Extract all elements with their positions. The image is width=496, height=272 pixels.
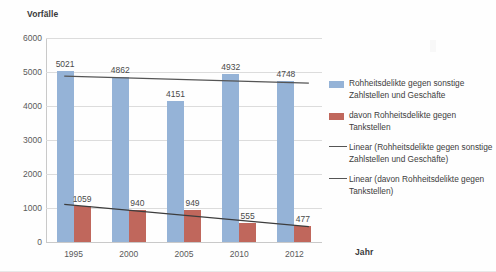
- y-tick-label: 3000: [0, 135, 42, 145]
- gridline: [46, 242, 322, 243]
- x-tick-label: 1995: [64, 249, 83, 259]
- chart-legend: Rohheitsdelikte gegen sonstige Zahlstell…: [329, 78, 493, 206]
- x-tick-label: 2012: [285, 249, 304, 259]
- y-tick-label: 2000: [0, 169, 42, 179]
- y-tick-label: 0: [0, 237, 42, 247]
- legend-label: davon Rohheitsdelikte gegen Tankstellen: [349, 110, 493, 133]
- x-tick-label: 2010: [230, 249, 249, 259]
- y-axis-tick-labels: 6000500040003000200010000: [0, 0, 42, 204]
- legend-swatch-line-icon: [329, 146, 347, 154]
- trendline: [64, 76, 309, 83]
- chart-canvas: Vorfälle Jahr 6000500040003000200010000 …: [0, 0, 496, 272]
- x-axis-title: Jahr: [355, 247, 373, 257]
- legend-swatch-blue-square-icon: [329, 81, 344, 88]
- legend-item[interactable]: Linear (Rohheitsdelikte gegen sonstige Z…: [329, 142, 493, 165]
- y-tick-label: 1000: [0, 203, 42, 213]
- legend-label: Rohheitsdelikte gegen sonstige Zahlstell…: [349, 78, 493, 101]
- y-tick-label: 6000: [0, 33, 42, 43]
- trendline: [64, 204, 309, 226]
- legend-label: Linear (Rohheitsdelikte gegen sonstige Z…: [349, 142, 493, 165]
- scan-artifact: [430, 40, 436, 52]
- x-tick-label: 2000: [119, 249, 138, 259]
- x-tick-label: 2005: [175, 249, 194, 259]
- legend-swatch-red-square-icon: [329, 113, 344, 120]
- legend-label: Linear (davon Rohheitsdelikte gegen Tank…: [349, 174, 493, 197]
- y-tick-label: 4000: [0, 101, 42, 111]
- trendlines-layer: [46, 38, 322, 242]
- legend-item[interactable]: davon Rohheitsdelikte gegen Tankstellen: [329, 110, 493, 133]
- y-tick-label: 5000: [0, 67, 42, 77]
- legend-item[interactable]: Rohheitsdelikte gegen sonstige Zahlstell…: [329, 78, 493, 101]
- legend-item[interactable]: Linear (davon Rohheitsdelikte gegen Tank…: [329, 174, 493, 197]
- legend-swatch-line-icon: [329, 178, 347, 186]
